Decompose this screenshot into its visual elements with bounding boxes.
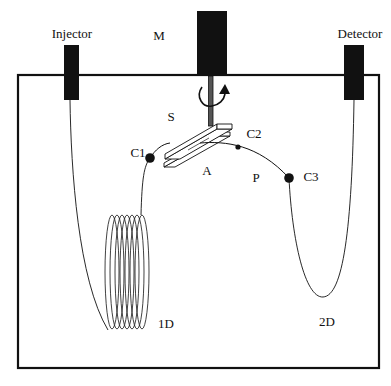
motor-shaft [209,76,214,126]
second-dimension-column [289,100,354,297]
c2-label: C2 [246,126,261,141]
second-dimension-label: 2D [319,314,335,329]
connector-c2 [235,144,240,149]
detector-block [344,45,364,100]
injector-tubing [70,100,108,330]
injector-label: Injector [52,26,93,41]
motor-block [197,11,227,76]
a-label: A [202,163,212,178]
rotation-arrow-icon [199,84,230,106]
c1-label: C1 [130,145,145,160]
switch-label: S [167,109,174,124]
motor-label: M [153,28,165,43]
detector-label: Detector [338,26,383,41]
first-dimension-coil [105,215,149,329]
switch-valve [164,124,232,167]
c3-label: C3 [303,169,318,184]
injector-block [64,45,79,100]
p-label: P [252,170,259,185]
first-dimension-label: 1D [158,316,174,331]
figure-caption [18,376,378,386]
coil-lead [141,158,150,215]
separation-apparatus-diagram: Injector M Detector S C1 C2 A P C3 [0,0,391,386]
